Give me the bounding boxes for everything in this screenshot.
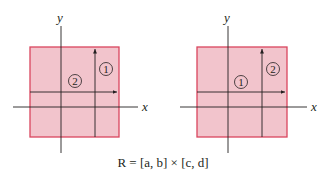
left-diagram: x y 1 2: [13, 10, 148, 153]
x-axis-label: x: [310, 99, 317, 114]
caption: R = [a, b] × [c, d]: [0, 155, 326, 171]
y-axis-label: y: [55, 10, 63, 25]
svg-text:1: 1: [238, 76, 244, 88]
svg-text:1: 1: [103, 63, 109, 75]
svg-text:2: 2: [270, 63, 276, 75]
right-diagram: x y 1 2: [180, 10, 317, 153]
svg-text:2: 2: [72, 75, 78, 87]
y-axis-label: y: [222, 10, 230, 25]
x-axis-label: x: [141, 99, 148, 114]
